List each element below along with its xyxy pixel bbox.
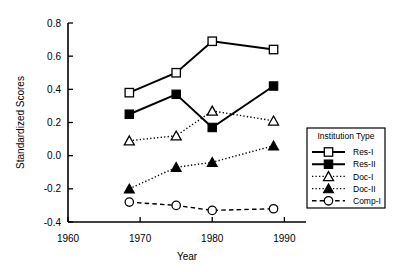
- y-tick-label: -0.2: [44, 183, 62, 194]
- series-line-res-ii: [129, 86, 273, 127]
- series-line-comp-i: [129, 202, 273, 210]
- legend-label-doc-i: Doc-I: [353, 172, 373, 182]
- data-point-res-i: [125, 88, 133, 96]
- data-point-comp-i: [172, 201, 180, 209]
- series-line-doc-i: [129, 111, 273, 141]
- data-point-res-ii: [208, 123, 216, 131]
- legend-marker-res-ii: [324, 160, 332, 168]
- legend-label-res-ii: Res-II: [353, 159, 376, 169]
- legend-marker-comp-i: [324, 197, 332, 205]
- line-chart: -0.4-0.20.00.20.40.60.81960197019801990Y…: [0, 0, 393, 272]
- y-tick-label: 0.8: [47, 18, 61, 29]
- data-point-res-i: [269, 45, 277, 53]
- x-axis-title: Year: [177, 251, 198, 262]
- data-point-doc-ii: [171, 162, 181, 171]
- data-point-res-ii: [125, 110, 133, 118]
- y-axis-title: Standardized Scores: [15, 76, 26, 169]
- data-point-doc-ii: [124, 184, 134, 193]
- legend-marker-res-i: [324, 148, 332, 156]
- series-line-res-i: [129, 41, 273, 92]
- series-line-doc-ii: [129, 146, 273, 189]
- legend-title: Institution Type: [317, 131, 374, 141]
- data-point-comp-i: [125, 198, 133, 206]
- y-tick-label: 0.2: [47, 117, 61, 128]
- data-point-doc-i: [269, 116, 279, 125]
- legend-label-doc-ii: Doc-II: [353, 184, 376, 194]
- x-tick-label: 1970: [129, 233, 152, 244]
- data-point-res-ii: [269, 82, 277, 90]
- y-tick-label: 0.6: [47, 51, 61, 62]
- y-tick-label: 0.0: [47, 150, 61, 161]
- data-point-doc-i: [207, 106, 217, 115]
- data-point-doc-ii: [269, 141, 279, 150]
- legend-label-comp-i: Comp-I: [353, 196, 381, 206]
- x-tick-label: 1990: [273, 233, 296, 244]
- data-point-doc-i: [171, 131, 181, 140]
- x-tick-label: 1980: [201, 233, 224, 244]
- data-point-res-i: [208, 37, 216, 45]
- data-point-res-i: [172, 69, 180, 77]
- legend-label-res-i: Res-I: [353, 147, 373, 157]
- data-point-res-ii: [172, 90, 180, 98]
- chart-container: -0.4-0.20.00.20.40.60.81960197019801990Y…: [0, 0, 393, 272]
- data-point-comp-i: [269, 205, 277, 213]
- x-tick-label: 1960: [57, 233, 80, 244]
- y-tick-label: 0.4: [47, 84, 61, 95]
- y-tick-label: -0.4: [44, 217, 62, 228]
- data-point-comp-i: [208, 206, 216, 214]
